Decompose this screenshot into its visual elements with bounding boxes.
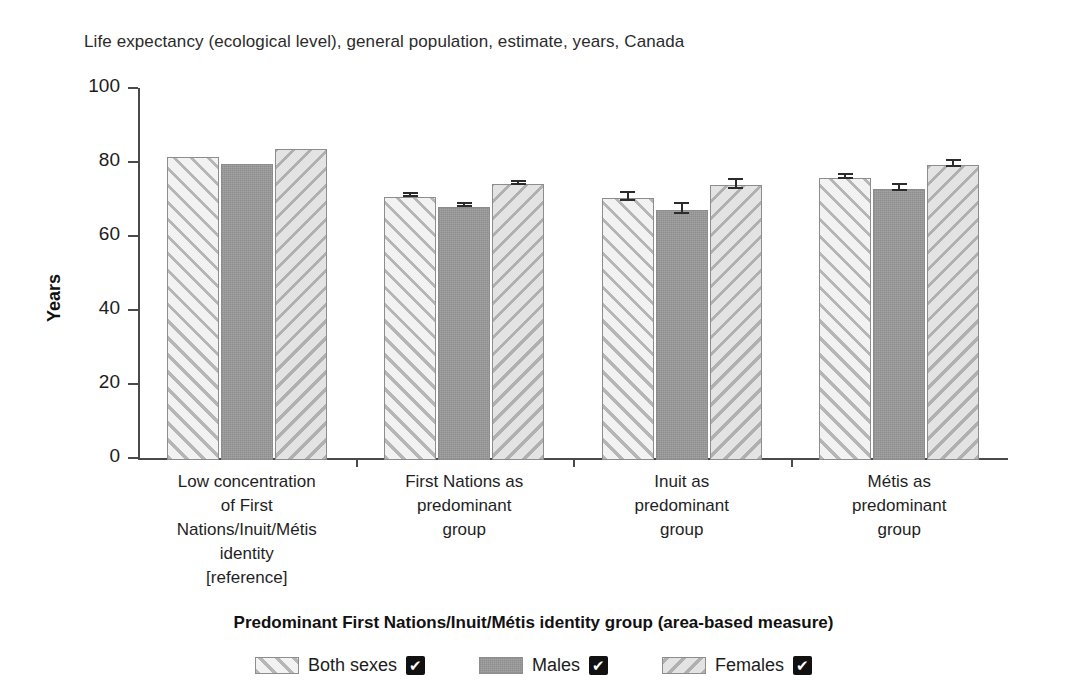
error-bar-cap (674, 212, 689, 214)
legend-swatch-icon (255, 657, 299, 674)
y-axis-tick-label: 80 (60, 149, 120, 171)
x-axis-category-line: predominant (356, 494, 574, 518)
bar (656, 210, 708, 460)
bar (602, 198, 654, 460)
chart-container: Life expectancy (ecological level), gene… (0, 0, 1067, 685)
legend-swatch-icon (479, 657, 523, 674)
bar (167, 157, 219, 460)
legend-label: Males (532, 655, 580, 676)
x-axis-category-label: Métis aspredominantgroup (791, 470, 1009, 542)
x-axis-title: Predominant First Nations/Inuit/Métis id… (0, 613, 1067, 633)
error-bar-cap (620, 199, 635, 201)
x-axis-category-line: First Nations as (356, 470, 574, 494)
y-axis-tick (128, 161, 138, 163)
x-axis-category-label: Low concentrationof FirstNations/Inuit/M… (138, 470, 356, 590)
error-bar-cap (511, 180, 526, 182)
x-axis-tick (573, 458, 575, 467)
bar (819, 178, 871, 460)
legend-item[interactable]: Both sexes✔ (255, 655, 425, 676)
x-axis-category-label: First Nations aspredominantgroup (356, 470, 574, 542)
error-bar-cap (892, 189, 907, 191)
chart-title: Life expectancy (ecological level), gene… (84, 32, 684, 52)
x-axis-category-label: Inuit aspredominantgroup (573, 470, 791, 542)
error-bar-cap (457, 202, 472, 204)
bar (492, 184, 544, 460)
error-bar-cap (403, 195, 418, 197)
x-axis-category-line: Nations/Inuit/Métis (138, 518, 356, 542)
bar (221, 164, 273, 460)
error-bar-cap (728, 187, 743, 189)
legend-checkbox-icon[interactable]: ✔ (793, 656, 812, 675)
bar (384, 197, 436, 460)
y-axis-tick-label: 0 (60, 445, 120, 467)
chart-legend: Both sexes✔Males✔Females✔ (0, 655, 1067, 676)
error-bar-cap (511, 183, 526, 185)
bar (873, 189, 925, 460)
y-axis-tick-label: 60 (60, 223, 120, 245)
x-axis-category-line: group (356, 518, 574, 542)
y-axis-tick (128, 309, 138, 311)
error-bar-cap (838, 173, 853, 175)
y-axis-tick-label: 100 (60, 75, 120, 97)
x-axis-category-line: group (791, 518, 1009, 542)
x-axis-tick (356, 458, 358, 467)
y-axis-tick-label: 40 (60, 297, 120, 319)
x-axis-category-line: group (573, 518, 791, 542)
bar (710, 185, 762, 460)
x-axis-category-line: Low concentration (138, 470, 356, 494)
x-axis-category-line: identity (138, 542, 356, 566)
error-bar-cap (403, 192, 418, 194)
x-axis-category-line: of First (138, 494, 356, 518)
x-axis-tick (791, 458, 793, 467)
y-axis-tick (128, 457, 138, 459)
y-axis-tick (128, 383, 138, 385)
y-axis-tick (128, 87, 138, 89)
error-bar-cap (946, 159, 961, 161)
plot-area (138, 88, 1008, 460)
y-axis-label-wrap: Years (22, 232, 62, 322)
bar (275, 149, 327, 460)
y-axis-tick (128, 235, 138, 237)
bar (438, 207, 490, 460)
x-axis-category-line: predominant (791, 494, 1009, 518)
x-axis-category-line: [reference] (138, 566, 356, 590)
legend-checkbox-icon[interactable]: ✔ (589, 656, 608, 675)
y-axis-tick-label: 20 (60, 371, 120, 393)
legend-swatch-icon (662, 657, 706, 674)
error-bar-cap (946, 165, 961, 167)
error-bar-cap (674, 202, 689, 204)
legend-label: Females (715, 655, 784, 676)
bar (927, 165, 979, 460)
error-bar-cap (728, 178, 743, 180)
error-bar-cap (892, 183, 907, 185)
error-bar-cap (457, 205, 472, 207)
legend-item[interactable]: Females✔ (662, 655, 812, 676)
error-bar-cap (838, 177, 853, 179)
x-axis-category-line: Inuit as (573, 470, 791, 494)
x-axis-category-line: Métis as (791, 470, 1009, 494)
legend-checkbox-icon[interactable]: ✔ (406, 656, 425, 675)
legend-label: Both sexes (308, 655, 397, 676)
legend-item[interactable]: Males✔ (479, 655, 608, 676)
x-axis-category-line: predominant (573, 494, 791, 518)
error-bar-cap (620, 191, 635, 193)
y-axis-line (138, 88, 140, 460)
